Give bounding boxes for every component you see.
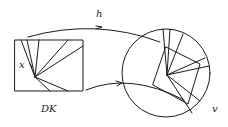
label-domain: DK [40, 103, 57, 114]
diagram-canvas: x DK h v [0, 0, 228, 127]
fan-lines-left [21, 40, 83, 91]
map-arrow-lower [86, 83, 184, 100]
label-h: h [96, 8, 102, 19]
label-x: x [19, 59, 25, 70]
fan-lines-right [163, 29, 209, 113]
domain-rectangle [15, 40, 83, 91]
label-v: v [212, 103, 218, 114]
target-disc [122, 29, 210, 117]
